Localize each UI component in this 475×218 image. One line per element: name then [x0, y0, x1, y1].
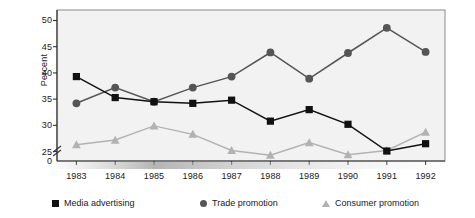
- y-tick-label: 35: [30, 94, 52, 104]
- x-tick-label: 1983: [59, 171, 93, 181]
- data-point[interactable]: [228, 97, 235, 104]
- triangle-marker-icon: [322, 200, 330, 207]
- legend-label-consumer-promotion: Consumer promotion: [335, 198, 419, 208]
- data-point[interactable]: [189, 84, 197, 92]
- x-tick-label: 1989: [292, 171, 326, 181]
- x-tick-label: 1991: [370, 171, 404, 181]
- data-point[interactable]: [267, 118, 274, 125]
- legend-item-media-advertising[interactable]: Media advertising: [52, 196, 135, 210]
- y-tick-label-zero: 0: [30, 156, 52, 166]
- data-point[interactable]: [305, 75, 313, 83]
- x-tick-label: 1988: [253, 171, 287, 181]
- data-point[interactable]: [344, 49, 352, 57]
- x-tick-label: 1985: [137, 171, 171, 181]
- line-chart: [0, 0, 475, 218]
- y-tick-label: 40: [30, 68, 52, 78]
- data-point[interactable]: [73, 73, 80, 80]
- legend-label-media-advertising: Media advertising: [64, 198, 135, 208]
- x-tick-label: 1990: [331, 171, 365, 181]
- circle-marker-icon: [200, 200, 207, 207]
- legend-label-trade-promotion: Trade promotion: [212, 198, 278, 208]
- data-point[interactable]: [189, 100, 196, 107]
- data-point[interactable]: [267, 49, 275, 57]
- data-point[interactable]: [344, 121, 351, 128]
- data-point[interactable]: [112, 94, 119, 101]
- square-marker-icon: [52, 200, 59, 207]
- data-point[interactable]: [422, 48, 430, 56]
- data-point[interactable]: [383, 24, 391, 32]
- legend-item-consumer-promotion[interactable]: Consumer promotion: [322, 196, 419, 210]
- x-tick-label: 1984: [98, 171, 132, 181]
- legend-item-trade-promotion[interactable]: Trade promotion: [200, 196, 278, 210]
- y-tick-label: 30: [30, 120, 52, 130]
- data-point[interactable]: [111, 84, 119, 92]
- data-point[interactable]: [422, 140, 429, 147]
- data-point[interactable]: [306, 106, 313, 113]
- data-point[interactable]: [150, 98, 157, 105]
- data-point[interactable]: [73, 99, 81, 107]
- data-point[interactable]: [383, 147, 390, 154]
- chart-legend: Media advertising Trade promotion Consum…: [52, 196, 452, 212]
- x-tick-label: 1986: [176, 171, 210, 181]
- x-tick-label: 1987: [215, 171, 249, 181]
- x-tick-label: 1992: [409, 171, 443, 181]
- y-tick-label: 45: [30, 42, 52, 52]
- x-axis-shadow-band: [58, 162, 445, 169]
- y-tick-label: 50: [30, 15, 52, 25]
- data-point[interactable]: [228, 73, 236, 81]
